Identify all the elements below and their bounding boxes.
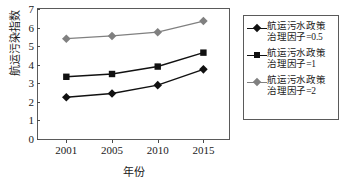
legend-key	[247, 77, 267, 88]
legend-item: 航运污水政策治理因子=2	[247, 75, 335, 97]
y-tick-mark	[37, 83, 40, 84]
y-tick-label: 1	[20, 115, 34, 125]
data-point-marker	[153, 28, 162, 37]
y-tick-label: 3	[20, 78, 34, 88]
data-point-marker	[153, 81, 162, 90]
x-tick-label: 2015	[183, 144, 223, 156]
plot-area	[37, 8, 230, 140]
y-tick-mark	[37, 139, 40, 140]
data-point-marker	[199, 17, 208, 26]
chart-figure: 航运污染指数 01234567 2001200520102015 年份 航运污水…	[0, 0, 346, 192]
x-tick-label: 2010	[138, 144, 178, 156]
data-point-marker	[108, 32, 117, 41]
x-tick-label: 2005	[92, 144, 132, 156]
legend-label: 航运污水政策治理因子=2	[267, 75, 335, 97]
y-tick-label: 4	[20, 60, 34, 70]
x-tick-mark	[203, 140, 204, 143]
legend-item: 航运污水政策治理因子=0.5	[247, 21, 335, 43]
y-tick-mark	[37, 46, 40, 47]
legend: 航运污水政策治理因子=0.5航运污水政策治理因子=1航运污水政策治理因子=2	[243, 15, 339, 120]
y-tick-mark	[37, 120, 40, 121]
x-tick-mark	[66, 140, 67, 143]
series-canvas	[38, 9, 229, 139]
y-tick-label: 5	[20, 41, 34, 51]
data-point-marker	[199, 65, 208, 74]
square-marker-icon	[254, 52, 260, 58]
line-series	[62, 17, 208, 43]
y-tick-label: 2	[20, 97, 34, 107]
legend-item: 航运污水政策治理因子=1	[247, 48, 335, 70]
x-axis-label: 年份	[37, 163, 230, 179]
series-line	[66, 69, 203, 97]
data-point-marker	[200, 49, 206, 55]
y-tick-label: 7	[20, 4, 34, 14]
y-axis-tick-labels: 01234567	[16, 0, 34, 192]
data-point-marker	[62, 93, 71, 102]
x-tick-mark	[112, 140, 113, 143]
data-point-marker	[155, 63, 161, 69]
data-point-marker	[62, 34, 71, 43]
diamond-marker-icon	[253, 78, 261, 86]
series-line	[66, 21, 203, 39]
legend-label: 航运污水政策治理因子=1	[267, 48, 335, 70]
series-line	[66, 53, 203, 77]
y-tick-label: 6	[20, 23, 34, 33]
y-tick-mark	[37, 9, 40, 10]
x-tick-mark	[158, 140, 159, 143]
data-point-marker	[63, 74, 69, 80]
data-point-marker	[109, 71, 115, 77]
y-tick-mark	[37, 102, 40, 103]
data-point-marker	[108, 89, 117, 98]
legend-key	[247, 23, 267, 34]
x-tick-label: 2001	[46, 144, 86, 156]
diamond-marker-icon	[253, 24, 261, 32]
y-tick-mark	[37, 65, 40, 66]
legend-key	[247, 50, 267, 61]
y-tick-mark	[37, 28, 40, 29]
y-tick-label: 0	[20, 134, 34, 144]
legend-label: 航运污水政策治理因子=0.5	[267, 21, 335, 43]
